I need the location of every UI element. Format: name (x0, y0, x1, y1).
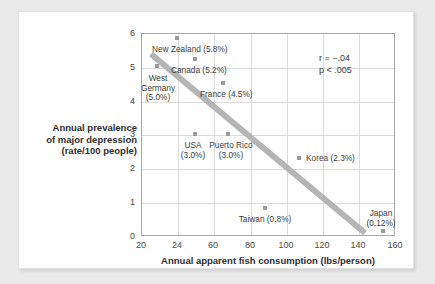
ytick-4: 4 (119, 96, 135, 106)
gridline-y-2 (142, 169, 394, 170)
gridline-y-3 (142, 135, 394, 136)
label-new-zealand: New Zealand (5.8%) (152, 45, 228, 55)
y-axis-label: Annual prevalence of major depression (r… (25, 122, 137, 157)
xtick-100: 100 (278, 240, 293, 250)
plot-frame (141, 33, 395, 236)
xtick-20: 20 (136, 240, 146, 250)
marker-new-zealand[interactable] (175, 36, 179, 40)
xtick-140: 140 (350, 240, 365, 250)
xtick-60: 60 (208, 240, 218, 250)
xtick-80: 80 (245, 240, 255, 250)
label-usa: USA (3.0%) (181, 141, 205, 160)
correlation-value: r = −.04 (319, 52, 352, 64)
y-axis-label-line-3: (rate/100 people) (25, 145, 137, 157)
marker-west-germany[interactable] (155, 64, 159, 68)
statistics-annotation: r = −.04 p < .005 (319, 52, 352, 76)
ytick-2: 2 (119, 163, 135, 173)
xtick-160: 160 (387, 240, 402, 250)
label-japan-line-2: (0.12%) (366, 219, 395, 229)
label-usa-line-2: (3.0%) (181, 151, 205, 161)
figure-card: 0 1 2 3 4 5 6 20 24 60 80 100 120 140 16… (18, 11, 414, 269)
marker-usa[interactable] (193, 132, 197, 136)
ytick-6: 6 (119, 28, 135, 38)
marker-canada[interactable] (193, 57, 197, 61)
label-france: France (4.5%) (200, 90, 253, 100)
marker-france[interactable] (221, 81, 225, 85)
label-west-germany-line-3: (5.0%) (141, 93, 175, 103)
label-puerto-rico: Puerto Rico (3.0%) (209, 141, 252, 160)
p-value: p < .005 (319, 64, 352, 76)
marker-japan[interactable] (381, 229, 385, 233)
label-canada: Canada (5.2%) (171, 66, 227, 76)
label-west-germany: West Germany (5.0%) (141, 74, 175, 103)
label-korea: Korea (2.3%) (306, 154, 355, 164)
xtick-120: 120 (314, 240, 329, 250)
y-axis-label-line-2: of major depression (25, 134, 137, 146)
xtick-40: 24 (172, 240, 182, 250)
x-axis-label: Annual apparent fish consumption (lbs/pe… (141, 255, 395, 266)
marker-taiwan[interactable] (263, 206, 267, 210)
label-taiwan: Taiwan (0.8%) (239, 215, 292, 225)
y-axis-label-line-1: Annual prevalence (25, 122, 137, 134)
ytick-1: 1 (119, 197, 135, 207)
gridline-y-1 (142, 203, 394, 204)
ytick-5: 5 (119, 62, 135, 72)
scatter-chart: 0 1 2 3 4 5 6 20 24 60 80 100 120 140 16… (19, 12, 415, 270)
label-puerto-rico-line-2: (3.0%) (209, 151, 252, 161)
marker-puerto-rico[interactable] (226, 132, 230, 136)
marker-korea[interactable] (297, 156, 301, 160)
ytick-0: 0 (119, 231, 135, 241)
gridline-y-4 (142, 102, 394, 103)
label-japan: Japan (0.12%) (366, 209, 395, 228)
